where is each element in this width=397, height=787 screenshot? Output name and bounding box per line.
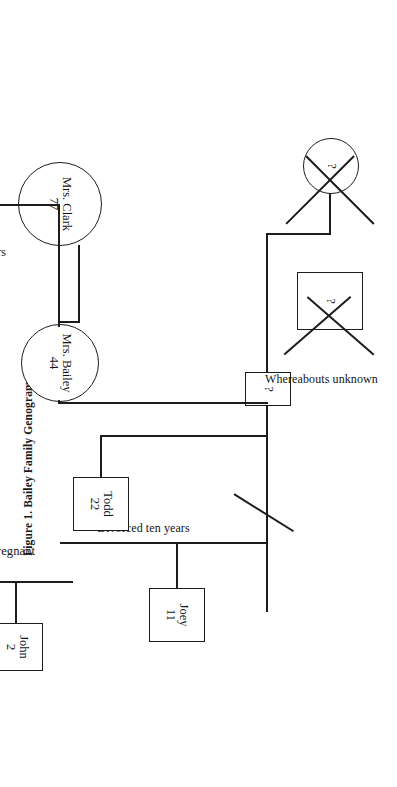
person-grandmother-unknown[interactable]: ? [303, 138, 359, 194]
person-todd[interactable]: Todd 22 [73, 477, 129, 531]
person-joey[interactable]: Joey 11 [149, 588, 205, 642]
person-john[interactable]: John 2 [0, 623, 43, 671]
connector-bailey-up [59, 402, 268, 404]
figure-page: Figure 1. Bailey Family Genogram. ? ? [0, 0, 397, 787]
person-grandfather-unknown[interactable]: ? [297, 272, 363, 330]
connector-to-joey [176, 542, 178, 590]
label-whereabouts-unknown: Whereabouts unknown [265, 371, 378, 386]
person-age: 22 [87, 497, 101, 510]
person-label: ? [323, 298, 337, 304]
label-56-years: 56 years [0, 245, 6, 260]
connector-to-john [15, 581, 17, 625]
connector-bailey-right [58, 400, 60, 404]
person-age: 11 [163, 608, 177, 620]
person-name: John [17, 635, 31, 659]
connector-into-ex-husband [266, 233, 268, 373]
person-mrs-bailey[interactable]: Mrs. Bailey 44 [21, 324, 99, 402]
connector-clark-couple-top [58, 204, 60, 322]
connector-to-todd [100, 435, 102, 479]
children-spine-bailey [60, 542, 268, 544]
divorce-slash-1 [233, 493, 293, 532]
connector-todd-spine [100, 435, 268, 437]
label-pregnant: Pregnant [0, 544, 35, 559]
person-name: Todd [101, 491, 115, 517]
genogram-canvas: ? ? ? Wherea [0, 0, 397, 787]
connector-union-vert-left [267, 233, 331, 235]
person-label: ? [324, 163, 338, 169]
person-name: Joey [177, 603, 191, 626]
person-name: Mrs. Clark [60, 176, 74, 230]
genogram-drawing: ? ? ? Wherea [27, 42, 387, 782]
connector-clark-bailey-vert [58, 321, 80, 323]
person-age: 2 [3, 643, 17, 649]
connector-clark-couple-vert [0, 204, 60, 206]
connector-gm-right [329, 193, 331, 234]
connector-todd-down [0, 581, 73, 583]
connector-clark-right [78, 245, 80, 322]
person-age: 44 [46, 356, 60, 369]
person-name: Mrs. Bailey [60, 333, 74, 392]
